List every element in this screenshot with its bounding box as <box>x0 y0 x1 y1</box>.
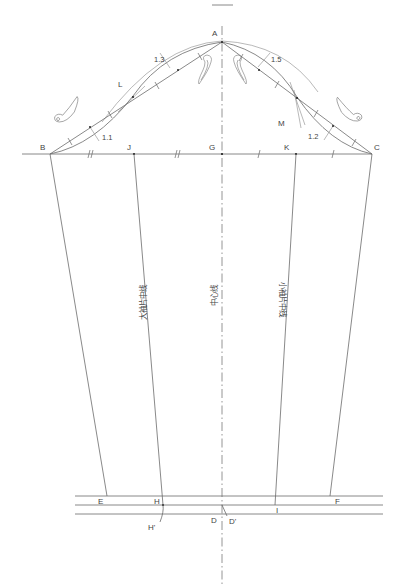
sleeve-pattern-diagram: A B C G J K L M E H I F D D' H' 1.3 1.5 … <box>0 0 398 584</box>
guide-line-m <box>290 82 305 125</box>
label-d: D <box>211 516 217 525</box>
point-m <box>296 97 298 99</box>
point-l <box>132 96 134 98</box>
line-c-f <box>330 154 372 496</box>
point-mid-a-l <box>177 69 179 71</box>
french-curve-icon <box>53 97 85 126</box>
label-e: E <box>98 497 103 506</box>
guide-line-l <box>118 86 145 112</box>
point-g <box>221 153 223 155</box>
measure-upper-right: 1.5 <box>271 55 281 64</box>
offset-mark-1-1 <box>90 127 99 141</box>
point-mid-a-m <box>258 69 260 71</box>
label-h-prime: H' <box>148 523 156 532</box>
label-k: K <box>284 143 290 152</box>
sleeve-cap-guide-arc <box>102 41 318 122</box>
measure-upper-left: 1.3 <box>154 55 164 64</box>
label-i: I <box>276 506 278 515</box>
measure-lower-left: 1.1 <box>102 133 112 142</box>
line-k-i <box>275 154 296 505</box>
label-f: F <box>335 497 340 506</box>
label-c: C <box>374 143 380 152</box>
french-curve-icon <box>331 97 364 125</box>
point-a <box>221 41 223 43</box>
line-j-h <box>134 154 163 505</box>
label-b: B <box>40 143 45 152</box>
guide-line-m2 <box>294 90 301 128</box>
label-center-line: 中心线 <box>209 284 219 306</box>
point-mid-b-l <box>89 126 91 128</box>
offset-mark-1-2 <box>324 126 333 140</box>
point-mid-m-c <box>332 125 334 127</box>
label-j: J <box>127 143 131 152</box>
label-top-sleeve-center-line: 大袖片中线 <box>138 284 148 320</box>
label-m: M <box>278 119 285 128</box>
label-g: G <box>209 143 215 152</box>
label-l: L <box>118 80 123 89</box>
label-h: H <box>154 497 160 506</box>
label-under-sleeve-center-line: 小袖片中线 <box>278 282 288 318</box>
line-h-h-prime <box>160 505 163 522</box>
line-b-e <box>50 154 107 496</box>
french-curve-icon <box>199 55 212 84</box>
measure-lower-right: 1.2 <box>308 132 318 141</box>
offset-mark-1-5 <box>258 53 270 67</box>
label-d-prime: D' <box>229 517 237 526</box>
label-a: A <box>212 29 218 38</box>
